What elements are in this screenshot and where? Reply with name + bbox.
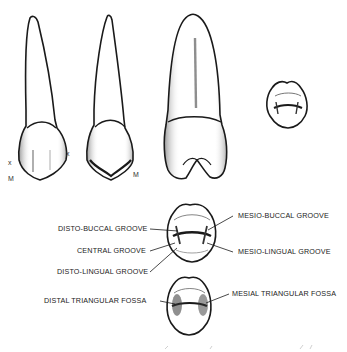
tooth-occlusal-view-small [267, 82, 307, 128]
mark-m-first: M [8, 175, 14, 183]
cutoff-marks [165, 345, 312, 349]
occlusal-view-fossae [167, 277, 211, 335]
label-mesio-buccal-groove: MESIO-BUCCAL GROOVE [238, 212, 329, 220]
mark-x-left: x [8, 159, 12, 167]
label-central-groove: CENTRAL GROOVE [77, 247, 146, 255]
mark-m-second: M [133, 171, 139, 179]
label-disto-buccal-groove: DISTO-BUCCAL GROOVE [58, 225, 148, 233]
occlusal-view-grooves [167, 204, 215, 262]
label-mesial-triangular-fossa: MESIAL TRIANGULAR FOSSA [232, 290, 336, 298]
label-disto-lingual-groove: DISTO-LINGUAL GROOVE [57, 268, 148, 276]
label-mesio-lingual-groove: MESIO-LINGUAL GROOVE [238, 248, 331, 256]
mark-x-right: x [66, 150, 70, 158]
dental-anatomy-figure: x x M M DISTO-BUCCAL GROOVE CENTRAL GROO… [0, 0, 347, 352]
tooth-proximal-view [164, 14, 226, 178]
label-distal-triangular-fossa: DISTAL TRIANGULAR FOSSA [44, 297, 146, 305]
tooth-lingual-view [87, 15, 133, 180]
tooth-labial-view [19, 16, 67, 180]
